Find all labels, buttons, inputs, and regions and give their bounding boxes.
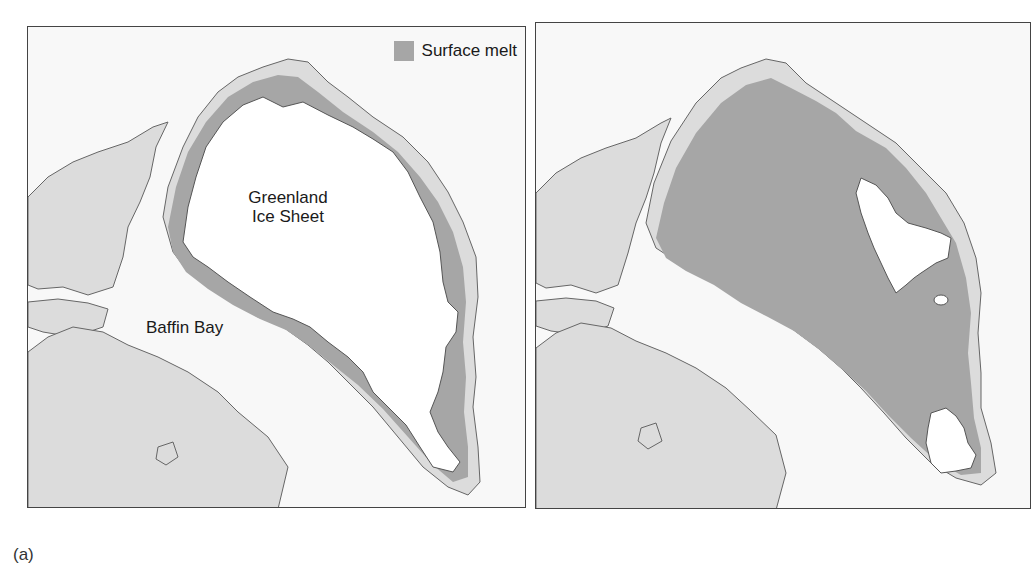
greenland-label-line1: Greenland [233,188,343,207]
greenland-ice-sheet-label: Greenland Ice Sheet [233,188,343,226]
baffin-bay-label: Baffin Bay [146,318,223,337]
figure-caption: (a) [13,545,34,565]
baffin-island [28,327,288,508]
map-panel-right [535,22,1031,509]
map-right-svg [536,23,1031,509]
ice-sheet-dry-patch-small [934,295,948,305]
baffin-island [536,323,786,509]
ellesmere-island [28,122,168,295]
legend: Surface melt [394,41,517,61]
map-left-svg [28,27,526,508]
legend-swatch-surface-melt [394,41,414,61]
legend-label: Surface melt [422,41,517,61]
map-panel-left: Surface melt Greenland Ice Sheet Baffin … [27,26,526,508]
greenland-label-line2: Ice Sheet [233,207,343,226]
